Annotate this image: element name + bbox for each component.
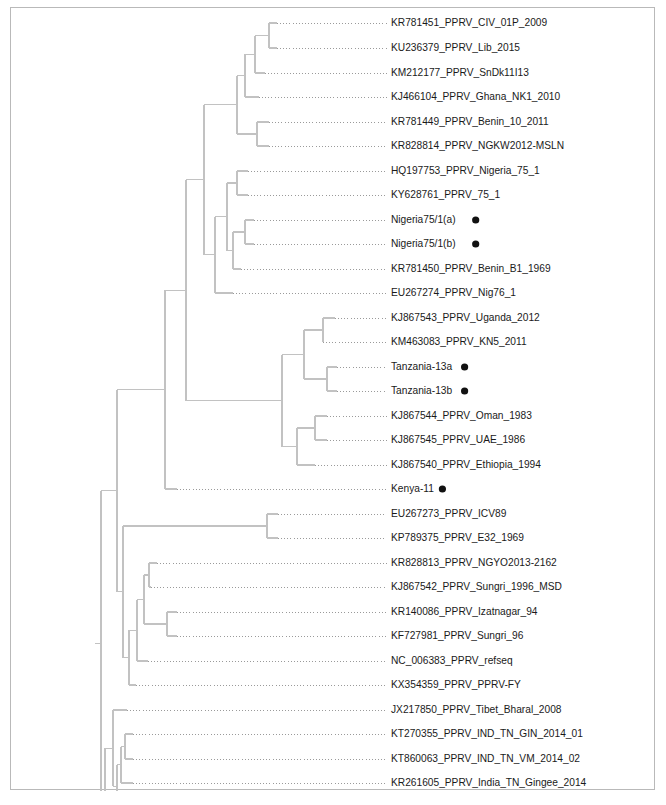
study-isolate-marker-icon [461,387,468,394]
tip-label: KF727981_PPRV_Sungri_96 [391,630,524,641]
tip-label: EU267273_PPRV_ICV89 [391,508,507,519]
tip-label: KP789375_PPRV_E32_1969 [391,532,524,543]
tip-label: EU267274_PPRV_Nig76_1 [391,287,516,298]
tip-label: KR828813_PPRV_NGYO2013-2162 [391,557,557,568]
tip-label: JX217850_PPRV_Tibet_Bharal_2008 [391,704,562,715]
tip-label: KU236379_PPRV_Lib_2015 [391,42,520,53]
tip-labels: KR781451_PPRV_CIV_01P_2009KU236379_PPRV_… [391,17,587,791]
tip-label: HQ197753_PPRV_Nigeria_75_1 [391,165,540,176]
tip-label: KJ867540_PPRV_Ethiopia_1994 [391,459,541,470]
tip-label: KJ867545_PPRV_UAE_1986 [391,434,525,445]
tip-label: KT270355_PPRV_IND_TN_GIN_2014_01 [391,728,583,739]
tip-label: Nigeria75/1(b) [391,238,456,249]
study-isolate-marker-icon [439,485,446,492]
tip-label: KY628761_PPRV_75_1 [391,189,500,200]
figure-frame: KR781451_PPRV_CIV_01P_2009KU236379_PPRV_… [10,7,655,790]
tip-label: KJ867543_PPRV_Uganda_2012 [391,312,540,323]
tip-label: KM212177_PPRV_SnDk11I13 [391,67,529,78]
tip-label: NC_006383_PPRV_refseq [391,655,513,666]
tip-label: KR781449_PPRV_Benin_10_2011 [391,116,549,127]
tip-label: KR781450_PPRV_Benin_B1_1969 [391,263,551,274]
tip-label: KJ466104_PPRV_Ghana_NK1_2010 [391,91,561,102]
tip-label: KJ867544_PPRV_Oman_1983 [391,410,532,421]
tip-label: KR261605_PPRV_India_TN_Gingee_2014 [391,777,587,788]
tip-label: KR140086_PPRV_Izatnagar_94 [391,606,538,617]
tip-label: KM463083_PPRV_KN5_2011 [391,336,527,347]
study-isolate-marker-icon [472,240,479,247]
tip-label: Kenya-11 [391,483,434,494]
tip-label: KR781451_PPRV_CIV_01P_2009 [391,17,547,28]
tip-label: KR828814_PPRV_NGKW2012-MSLN [391,140,564,151]
tip-label: Tanzania-13b [391,385,453,396]
tip-label: Nigeria75/1(a) [391,214,456,225]
tip-label: Tanzania-13a [391,361,453,372]
tree-branches [95,23,337,791]
tip-label: KJ867542_PPRV_Sungri_1996_MSD [391,581,562,592]
phylogenetic-tree: KR781451_PPRV_CIV_01P_2009KU236379_PPRV_… [11,8,656,791]
study-isolate-marker-icon [461,363,468,370]
tip-label: KX354359_PPRV_PPRV-FY [391,679,521,690]
study-isolate-marker-icon [472,216,479,223]
tip-leader-lines [125,23,387,791]
tip-label: KT860063_PPRV_IND_TN_VM_2014_02 [391,753,580,764]
